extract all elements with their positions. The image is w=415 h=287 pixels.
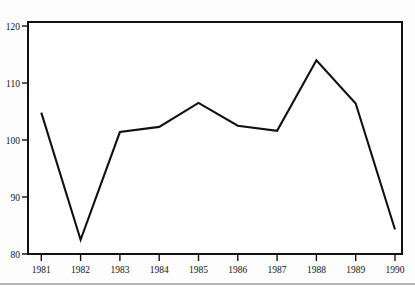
plot-frame — [28, 22, 402, 254]
x-axis-label-1983: 1983 — [110, 265, 129, 275]
x-axis-label-1987: 1987 — [268, 265, 287, 275]
x-axis-label-1986: 1986 — [228, 265, 247, 275]
line-chart-figure: 120 110 100 90 80 1981 1982 1983 1984 19… — [0, 0, 415, 287]
x-axis-labels: 1981 1982 1983 1984 1985 1986 1987 1988 … — [32, 265, 405, 275]
y-axis-labels: 120 110 100 90 80 — [6, 22, 21, 260]
x-axis-label-1982: 1982 — [71, 265, 90, 275]
y-axis-label-100: 100 — [6, 136, 21, 146]
chart-canvas: 120 110 100 90 80 1981 1982 1983 1984 19… — [0, 0, 415, 287]
y-axis-label-120: 120 — [6, 22, 21, 32]
x-axis-label-1988: 1988 — [307, 265, 326, 275]
x-axis-ticks — [41, 254, 395, 261]
x-axis-label-1989: 1989 — [346, 265, 365, 275]
x-axis-label-1990: 1990 — [386, 265, 405, 275]
x-axis-label-1984: 1984 — [150, 265, 169, 275]
y-axis-label-110: 110 — [6, 79, 20, 89]
y-axis-label-80: 80 — [11, 250, 21, 260]
y-axis-label-90: 90 — [11, 193, 21, 203]
x-axis-label-1981: 1981 — [32, 265, 51, 275]
x-axis-label-1985: 1985 — [189, 265, 208, 275]
